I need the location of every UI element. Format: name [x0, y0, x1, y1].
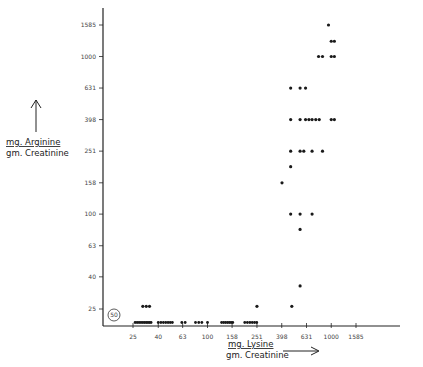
baseline-data-point [197, 321, 200, 324]
data-point [289, 86, 292, 89]
origin-annotation: 50 [108, 309, 120, 321]
x-tick-label: 63 [179, 333, 187, 340]
data-point [330, 118, 333, 121]
x-tick-label: 398 [276, 333, 288, 340]
data-point [310, 118, 313, 121]
x-axis-title: mg. Lysine gm. Creatinine [226, 339, 319, 360]
data-point [298, 228, 301, 231]
data-point [304, 86, 307, 89]
baseline-data-point [248, 321, 251, 324]
y-tick-label: 1000 [81, 53, 96, 60]
data-point [298, 284, 301, 287]
y-tick-label: 398 [85, 116, 97, 123]
y-tick-label: 631 [85, 84, 97, 91]
y-tick-label: 25 [88, 305, 96, 312]
data-point [317, 55, 320, 58]
data-point [327, 23, 330, 26]
x-tick-label: 40 [154, 333, 162, 340]
data-point [310, 213, 313, 216]
baseline-data-point [194, 321, 197, 324]
data-point [298, 118, 301, 121]
data-point [141, 305, 144, 308]
baseline-data-point [206, 321, 209, 324]
y-tick-label: 40 [88, 273, 96, 280]
x-tick-label: 631 [301, 333, 313, 340]
data-point [310, 150, 313, 153]
data-point [145, 305, 148, 308]
data-point [148, 305, 151, 308]
x-tick-label: 1000 [324, 333, 339, 340]
data-point [318, 118, 321, 121]
data-point [321, 55, 324, 58]
baseline-data-point [255, 321, 258, 324]
y-tick-label: 1585 [81, 21, 96, 28]
data-point [333, 55, 336, 58]
data-point [298, 213, 301, 216]
data-point [307, 118, 310, 121]
baseline-data-point [171, 321, 174, 324]
data-point [298, 150, 301, 153]
data-point [333, 118, 336, 121]
baseline-data-point [231, 321, 234, 324]
y-tick-label: 100 [85, 210, 97, 217]
baseline-data-point [200, 321, 203, 324]
data-point [298, 86, 301, 89]
y-tick-label: 158 [85, 179, 97, 186]
y-axis-title-denominator: gm. Creatinine [6, 148, 69, 158]
data-point [289, 150, 292, 153]
data-points [134, 23, 336, 324]
x-axis-title-numerator: mg. Lysine [228, 339, 273, 349]
circled-count-label: 50 [110, 311, 118, 318]
baseline-data-point [184, 321, 187, 324]
y-tick-label: 251 [85, 147, 97, 154]
data-point [289, 213, 292, 216]
y-axis-title-numerator: mg. Arginine [6, 137, 60, 147]
data-point [302, 150, 305, 153]
data-point [330, 55, 333, 58]
baseline-data-point [246, 321, 249, 324]
data-point [321, 150, 324, 153]
data-point [304, 118, 307, 121]
baseline-data-point [243, 321, 246, 324]
baseline-data-point [157, 321, 160, 324]
data-point [289, 165, 292, 168]
data-point [314, 118, 317, 121]
data-point [255, 305, 258, 308]
baseline-data-point [162, 321, 165, 324]
x-tick-label: 1585 [348, 333, 363, 340]
axes [103, 8, 400, 326]
baseline-data-point [180, 321, 183, 324]
data-point [330, 40, 333, 43]
scatter-chart: 25406310015825139863110001585 2540631001… [0, 0, 423, 367]
baseline-data-point [150, 321, 153, 324]
y-axis-title: mg. Arginine gm. Creatinine [6, 100, 69, 158]
x-tick-label: 25 [129, 333, 137, 340]
x-tick-label: 100 [202, 333, 214, 340]
y-ticks: 25406310015825139863110001585 [81, 21, 103, 312]
data-point [289, 118, 292, 121]
data-point [280, 181, 283, 184]
x-axis-title-denominator: gm. Creatinine [226, 350, 289, 360]
baseline-data-point [159, 321, 162, 324]
data-point [333, 40, 336, 43]
data-point [290, 305, 293, 308]
y-tick-label: 63 [88, 242, 96, 249]
